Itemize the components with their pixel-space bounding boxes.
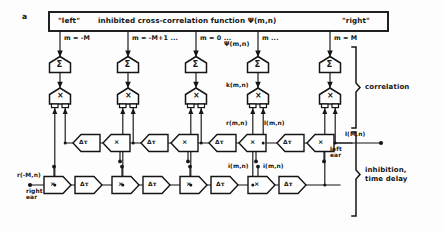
upper-chain-delay-2-glyph: Δτ xyxy=(147,139,156,145)
signal-label-r-mn: r(m,n) xyxy=(226,120,247,126)
psi-output-label: Ψ(m,n) xyxy=(224,41,250,48)
correlator-multiply-3-glyph: × xyxy=(193,92,200,100)
lower-chain-delay-3-glyph: Δτ xyxy=(216,181,225,187)
signal-label-l-Mn: l(M,n) xyxy=(345,131,365,137)
sum-node-3-glyph: Σ xyxy=(193,60,199,69)
title-right-tag: "right" xyxy=(342,17,370,25)
lower-chain-multiply-1-glyph: × xyxy=(50,181,55,188)
column-index-4: m ... xyxy=(262,35,279,42)
upper-chain-delay-4-glyph: Δτ xyxy=(283,139,292,145)
upper-chain-delay-1-glyph: Δτ xyxy=(79,139,88,145)
signal-label-r-minusM-n: r(-M,n) xyxy=(17,172,41,178)
sum-node-4-glyph: Σ xyxy=(255,60,261,69)
upper-chain-multiply-4-glyph: × xyxy=(318,139,323,146)
lower-chain-delay-1-glyph: Δτ xyxy=(80,181,89,187)
brace-label-correlation: correlation xyxy=(365,83,409,92)
lower-chain-multiply-4-glyph: × xyxy=(254,181,259,188)
lower-chain-delay-2-glyph: Δτ xyxy=(148,181,157,187)
sum-node-2-glyph: Σ xyxy=(125,60,131,69)
upper-chain-multiply-1-glyph: × xyxy=(114,139,119,146)
lower-chain-delay-4-glyph: Δτ xyxy=(284,181,293,187)
right-ear-label: right ear xyxy=(26,188,43,200)
sum-node-5-glyph: Σ xyxy=(327,60,333,69)
signal-label-i-mn-left: i(m,n) xyxy=(228,163,249,169)
upper-chain-multiply-3-glyph: × xyxy=(250,139,255,146)
column-index-1: m = -M xyxy=(64,35,90,42)
correlator-multiply-1-glyph: × xyxy=(57,92,64,100)
upper-chain-delay-3-glyph: Δτ xyxy=(215,139,224,145)
lower-chain-multiply-3-glyph: × xyxy=(186,181,191,188)
correlator-multiply-5-glyph: × xyxy=(327,92,334,100)
correlator-multiply-4-glyph: × xyxy=(255,92,262,100)
title-left-tag: "left" xyxy=(58,17,80,25)
signal-label-l-mn-upper: l(m,n) xyxy=(264,120,285,126)
upper-chain-multiply-2-glyph: × xyxy=(182,139,187,146)
signal-label-i-mn-right: i(m,n) xyxy=(263,163,284,169)
title-text: inhibited cross-correlation function Ψ(m… xyxy=(98,17,276,25)
left-ear-label: left ear xyxy=(330,146,342,158)
brace-label-inhibition-time-delay: inhibition, time delay xyxy=(365,166,407,184)
sum-node-1-glyph: Σ xyxy=(57,60,63,69)
lower-chain-multiply-2-glyph: × xyxy=(118,181,123,188)
figure-canvas: a "left" inhibited cross-correlation fun… xyxy=(0,0,443,232)
column-index-2: m = -M+1 ... xyxy=(132,35,178,42)
panel-label: a xyxy=(22,13,27,21)
signal-label-k-mn: k(m,n) xyxy=(226,82,248,88)
column-index-5: m = M xyxy=(334,35,357,42)
correlator-multiply-2-glyph: × xyxy=(125,92,132,100)
